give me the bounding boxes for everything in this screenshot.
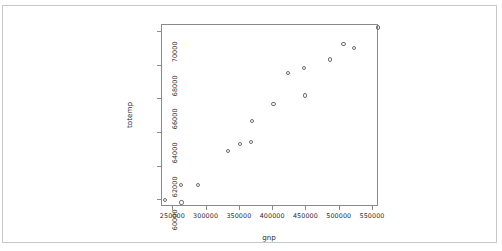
y-axis-tick-label: 68000 bbox=[172, 65, 180, 86]
y-axis-tick-label: 64000 bbox=[172, 132, 180, 153]
y-axis-tick bbox=[157, 166, 161, 167]
data-point bbox=[302, 66, 306, 70]
x-axis-tick-label: 300000 bbox=[193, 212, 218, 220]
data-point bbox=[303, 93, 307, 97]
x-axis-title: gnp bbox=[262, 233, 276, 242]
data-point bbox=[163, 198, 167, 202]
data-point bbox=[376, 25, 380, 29]
y-axis-tick-label: 66000 bbox=[172, 98, 180, 119]
x-axis-tick bbox=[239, 206, 240, 210]
x-axis-tick bbox=[339, 206, 340, 210]
y-axis-tick bbox=[157, 199, 161, 200]
x-axis-tick bbox=[272, 206, 273, 210]
x-axis-tick bbox=[372, 206, 373, 210]
x-axis-tick bbox=[305, 206, 306, 210]
x-axis-tick-label: 500000 bbox=[326, 212, 351, 220]
y-axis-tick bbox=[157, 132, 161, 133]
x-axis-tick-label: 550000 bbox=[360, 212, 385, 220]
y-axis-tick-label: 60000 bbox=[172, 199, 180, 220]
data-point bbox=[250, 119, 254, 123]
data-point bbox=[328, 57, 332, 61]
data-point bbox=[341, 42, 345, 46]
y-axis-tick bbox=[157, 31, 161, 32]
data-point bbox=[286, 71, 290, 75]
y-axis-tick bbox=[157, 65, 161, 66]
plot-area bbox=[161, 24, 378, 206]
data-point bbox=[238, 142, 242, 146]
y-axis-title: totemp bbox=[125, 102, 134, 128]
graphics-device-frame: 2500003000003500004000004500005000005500… bbox=[2, 5, 497, 243]
x-axis-tick-label: 350000 bbox=[226, 212, 251, 220]
data-point bbox=[352, 46, 356, 50]
scatter-points-layer bbox=[162, 25, 377, 205]
data-point bbox=[226, 149, 230, 153]
x-axis-tick-label: 450000 bbox=[293, 212, 318, 220]
y-axis-tick-label: 70000 bbox=[172, 31, 180, 52]
chart-canvas: 2500003000003500004000004500005000005500… bbox=[0, 0, 502, 251]
data-point bbox=[196, 183, 200, 187]
data-point bbox=[249, 140, 253, 144]
x-axis-tick-label: 400000 bbox=[260, 212, 285, 220]
y-axis-tick-label: 62000 bbox=[172, 166, 180, 187]
y-axis-tick bbox=[157, 98, 161, 99]
data-point bbox=[179, 200, 183, 204]
x-axis-tick bbox=[206, 206, 207, 210]
data-point bbox=[271, 102, 275, 106]
